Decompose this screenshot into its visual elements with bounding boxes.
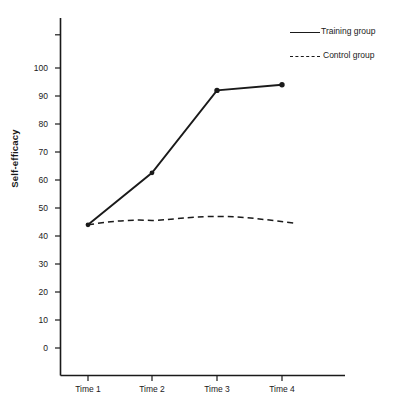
- x-tick-label-time-1: Time 1: [58, 385, 118, 394]
- y-tick-label-90: 90: [18, 92, 48, 101]
- line-chart-figure: Self-efficacy: [0, 0, 411, 413]
- series-line-control-group: [88, 216, 296, 224]
- legend-label-training-group: Training group: [321, 26, 376, 36]
- y-tick-label-60: 60: [18, 176, 48, 185]
- y-tick-label-70: 70: [18, 148, 48, 157]
- chart-legend: Training group Control group: [290, 25, 410, 73]
- y-tick-label-10: 10: [18, 316, 48, 325]
- y-tick-label-80: 80: [18, 120, 48, 129]
- y-tick-label-0: 0: [18, 344, 48, 353]
- series-line-training-group: [88, 85, 282, 225]
- legend-item-control-group: Control group: [290, 49, 410, 73]
- legend-label-control-group: Control group: [323, 50, 375, 60]
- legend-swatch-dashed-line-icon: [290, 56, 320, 59]
- legend-swatch-solid-line-icon: [290, 32, 320, 35]
- x-tick-label-time-2: Time 2: [122, 385, 182, 394]
- y-tick-label-40: 40: [18, 232, 48, 241]
- x-tick-label-time-3: Time 3: [187, 385, 247, 394]
- y-tick-label-100: 100: [18, 64, 48, 73]
- series-markers-training-group: [86, 82, 285, 227]
- y-tick-label-20: 20: [18, 288, 48, 297]
- legend-item-training-group: Training group: [290, 25, 410, 49]
- y-tick-label-50: 50: [18, 204, 48, 213]
- x-tick-label-time-4: Time 4: [252, 385, 312, 394]
- y-tick-label-30: 30: [18, 260, 48, 269]
